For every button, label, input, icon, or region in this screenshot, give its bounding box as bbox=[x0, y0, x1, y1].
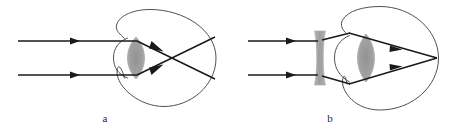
panel-label-a: a bbox=[103, 112, 108, 124]
cornea-arc-a bbox=[114, 38, 128, 78]
panel-b: b bbox=[248, 7, 439, 125]
panel-label-b: b bbox=[327, 112, 333, 124]
refracted-ray-upper-a bbox=[137, 41, 215, 79]
refracted-arrowhead-lower-a bbox=[149, 65, 164, 76]
refracted-ray-lower-a bbox=[137, 37, 215, 75]
ray-arrowhead-upper-b bbox=[286, 37, 296, 44]
optics-figure: a b bbox=[0, 0, 462, 135]
cornea-arc-b bbox=[335, 36, 350, 83]
ray-arrowhead-lower-a bbox=[70, 71, 80, 78]
ray-arrowhead-upper-a bbox=[70, 37, 80, 44]
panel-a: a bbox=[18, 10, 216, 125]
diverged-ray-upper-b bbox=[322, 33, 350, 40]
eyeball-outline-b bbox=[341, 7, 438, 111]
figure-canvas: a b bbox=[0, 0, 462, 135]
ray-arrowhead-lower-b bbox=[286, 71, 296, 78]
refracted-arrowhead-upper-a bbox=[149, 41, 164, 52]
crystalline-lens-b bbox=[358, 34, 375, 82]
